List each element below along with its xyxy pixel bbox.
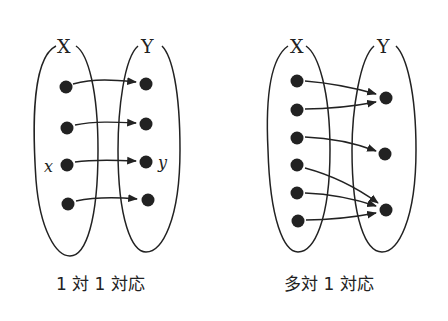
set-x-ellipse [34, 46, 98, 256]
one-to-one-diagram: X Y x y 1 対 1 対応 [34, 35, 180, 294]
element-x-label: x [44, 157, 53, 176]
element-y-label: y [157, 153, 168, 172]
correspondence-figure: X Y x y 1 対 1 対応 X Y [0, 0, 448, 321]
mapping-arrows [305, 81, 378, 220]
many-to-one-diagram: X Y 多対 1 対応 [267, 35, 416, 294]
set-y-label: Y [376, 35, 390, 57]
caption-one-to-one: 1 対 1 対応 [56, 274, 145, 294]
mapping-arrows [73, 80, 137, 201]
caption-many-to-one: 多対 1 対応 [284, 274, 374, 294]
set-x-label: X [57, 35, 71, 57]
y-elements [379, 92, 393, 217]
set-y-label: Y [140, 35, 154, 57]
x-elements [291, 75, 305, 228]
y-elements [140, 78, 155, 207]
x-elements [60, 81, 75, 211]
set-y-ellipse [118, 46, 180, 252]
set-x-label: X [290, 35, 304, 57]
